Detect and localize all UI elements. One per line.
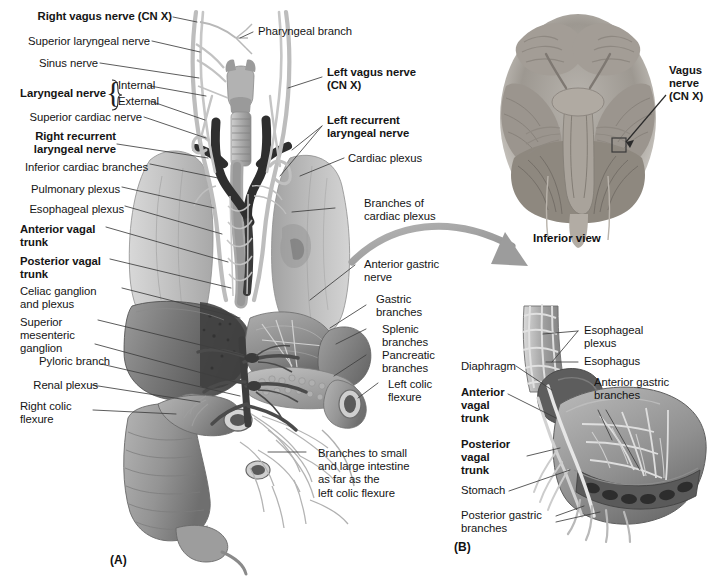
label-vagus-nerve-inset: Vagus nerve (CN X) <box>669 64 703 104</box>
label-inferior-cardiac-branches: Inferior cardiac branches <box>6 161 148 174</box>
label-pharyngeal-branch: Pharyngeal branch <box>258 25 352 38</box>
label-right-recurrent-laryngeal-nerve: Right recurrent laryngeal nerve <box>6 130 116 156</box>
panel-b-identifier: (B) <box>454 540 471 554</box>
label-right-vagus-nerve: Right vagus nerve (CN X) <box>6 10 172 23</box>
label-posterior-gastric-branches: Posterior gastric branches <box>461 509 542 535</box>
inset-caption: Inferior view <box>533 232 601 244</box>
label-anterior-vagal-trunk: Anterior vagal trunk <box>20 223 95 249</box>
inset-photograph <box>499 8 666 248</box>
label-left-vagus-nerve: Left vagus nerve (CN X) <box>327 66 416 92</box>
label-stomach: Stomach <box>461 484 505 497</box>
label-gastric-branches: Gastric branches <box>376 293 422 319</box>
label-sinus-nerve: Sinus nerve <box>6 57 98 70</box>
label-internal: Internal <box>118 79 155 92</box>
label-esophageal-plexus: Esophageal plexus <box>6 203 124 216</box>
label-branches-to-small-and-large-intestine: Branches to small and large intestine as… <box>318 447 409 500</box>
label-laryngeal-nerve: Laryngeal nerve <box>6 87 106 100</box>
label-left-colic-flexure: Left colic flexure <box>388 378 432 404</box>
label-external: External <box>118 95 159 108</box>
label-esophagus: Esophagus <box>584 355 640 368</box>
label-anterior-gastric-nerve: Anterior gastric nerve <box>364 258 439 284</box>
label-right-colic-flexure: Right colic flexure <box>20 400 72 426</box>
label-pancreatic-branches: Pancreatic branches <box>382 349 435 375</box>
label-renal-plexus: Renal plexus <box>6 379 98 392</box>
label-superior-laryngeal-nerve: Superior laryngeal nerve <box>6 35 150 48</box>
panel-a-identifier: (A) <box>110 553 127 567</box>
label-esophageal-plexus-b: Esophageal plexus <box>584 324 643 350</box>
label-posterior-vagal-trunk: Posterior vagal trunk <box>20 255 101 281</box>
label-superior-cardiac-nerve: Superior cardiac nerve <box>6 111 142 124</box>
label-anterior-gastric-branches: Anterior gastric branches <box>594 376 669 402</box>
label-diaphragm: Diaphragm <box>461 360 516 373</box>
label-branches-of-cardiac-plexus: Branches of cardiac plexus <box>364 197 436 223</box>
label-posterior-vagal-trunk-b: Posterior vagal trunk <box>461 438 510 478</box>
label-left-recurrent-laryngeal-nerve: Left recurrent laryngeal nerve <box>327 114 409 140</box>
label-pyloric-branch: Pyloric branch <box>6 355 110 368</box>
anatomy-figure: Right vagus nerve (CN X) Superior laryng… <box>0 0 723 582</box>
label-celiac-ganglion-and-plexus: Celiac ganglion and plexus <box>20 285 97 311</box>
label-pulmonary-plexus: Pulmonary plexus <box>6 183 120 196</box>
label-cardiac-plexus: Cardiac plexus <box>348 152 422 165</box>
label-splenic-branches: Splenic branches <box>382 323 428 349</box>
label-superior-mesenteric-ganglion: Superior mesenteric ganglion <box>20 316 75 356</box>
label-anterior-vagal-trunk-b: Anterior vagal trunk <box>461 386 505 426</box>
